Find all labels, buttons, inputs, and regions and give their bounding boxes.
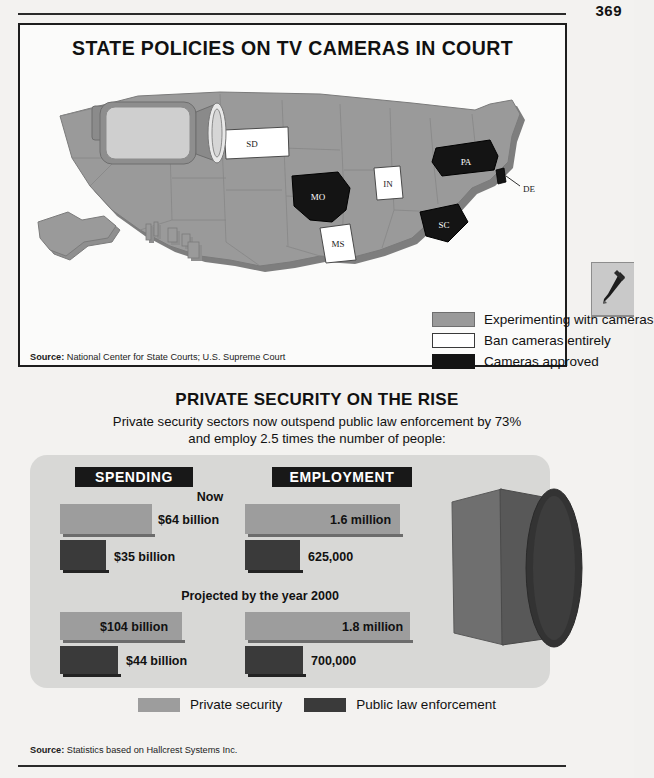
group-label-now: Now xyxy=(170,490,250,504)
state-ms: MS xyxy=(320,224,356,263)
legend-label-approved: Cameras approved xyxy=(484,354,599,369)
security-source-text: Statistics based on Hallcrest Systems In… xyxy=(67,745,238,755)
state-sd: SD xyxy=(224,127,289,159)
chart-legend-label-private: Private security xyxy=(190,697,282,712)
security-subtitle: Private security sectors now outspend pu… xyxy=(60,413,574,447)
security-source: Source: Statistics based on Hallcrest Sy… xyxy=(30,745,237,755)
state-label-sc: SC xyxy=(438,220,449,230)
security-source-prefix: Source: xyxy=(30,745,64,755)
value-spending-2000-public: $44 billion xyxy=(126,654,187,668)
group-label-projected: Projected by the year 2000 xyxy=(150,589,370,603)
state-de: DE xyxy=(496,168,535,194)
map-source: Source: National Center for State Courts… xyxy=(30,352,285,362)
chart-legend-label-public: Public law enforcement xyxy=(356,697,496,712)
map-panel: STATE POLICIES ON TV CAMERAS IN COURT xyxy=(18,23,567,367)
value-employment-now-public: 625,000 xyxy=(308,550,353,564)
map-source-text: National Center for State Courts; U.S. S… xyxy=(67,352,286,362)
value-employment-2000-public: 700,000 xyxy=(311,654,356,668)
security-subtitle-line2: and employ 2.5 times the number of peopl… xyxy=(60,430,574,447)
state-label-pa: PA xyxy=(461,157,472,167)
chart-legend: Private security Public law enforcement xyxy=(0,697,634,712)
us-map-graphic: SD MO IN MS xyxy=(20,70,565,315)
value-spending-2000-private: $104 billion xyxy=(100,620,168,634)
state-label-ms: MS xyxy=(331,239,344,249)
chart-legend-swatch-public xyxy=(304,698,346,712)
bar-employment-2000-public xyxy=(245,646,303,674)
value-spending-now-private: $64 billion xyxy=(158,513,219,527)
side-tab-divider xyxy=(592,315,634,316)
security-subtitle-line1: Private security sectors now outspend pu… xyxy=(60,413,574,430)
state-label-de: DE xyxy=(523,184,535,194)
state-in: IN xyxy=(374,166,403,200)
bar-spending-now-public xyxy=(60,540,106,570)
map-source-prefix: Source: xyxy=(30,352,64,362)
state-label-mo: MO xyxy=(311,192,326,202)
security-title: PRIVATE SECURITY ON THE RISE xyxy=(0,390,634,410)
bar-spending-2000-public xyxy=(60,646,118,674)
value-employment-now-private: 1.6 million xyxy=(330,513,391,527)
legend-swatch-gray xyxy=(432,312,475,327)
chart-legend-item-private: Private security xyxy=(138,697,282,712)
tv-camera-graphic xyxy=(92,102,226,164)
chart-legend-item-public: Public law enforcement xyxy=(304,697,496,712)
value-employment-2000-private: 1.8 million xyxy=(342,620,403,634)
page-number: 369 xyxy=(595,2,622,19)
legend-swatch-white xyxy=(432,333,475,348)
bottom-divider xyxy=(18,765,566,767)
legend-swatch-black xyxy=(432,354,475,369)
megaphone-graphic xyxy=(442,487,592,676)
bar-employment-now-public xyxy=(245,540,300,570)
pen-icon xyxy=(598,268,628,310)
legend-row-ban: Ban cameras entirely xyxy=(432,331,654,350)
legend-label-ban: Ban cameras entirely xyxy=(484,333,611,348)
value-spending-now-public: $35 billion xyxy=(114,550,175,564)
map-title: STATE POLICIES ON TV CAMERAS IN COURT xyxy=(20,37,565,60)
top-divider xyxy=(18,13,566,15)
state-label-in: IN xyxy=(383,179,393,189)
state-label-sd: SD xyxy=(246,139,258,149)
side-tab[interactable] xyxy=(591,262,634,317)
map-legend: Experimenting with cameras Ban cameras e… xyxy=(432,310,654,373)
category-badge-employment: EMPLOYMENT xyxy=(272,467,412,487)
chart-legend-swatch-private xyxy=(138,698,180,712)
bar-spending-now-private xyxy=(60,504,152,534)
state-alaska xyxy=(38,212,120,260)
legend-row-approved: Cameras approved xyxy=(432,352,654,371)
category-badge-spending: SPENDING xyxy=(75,467,193,487)
